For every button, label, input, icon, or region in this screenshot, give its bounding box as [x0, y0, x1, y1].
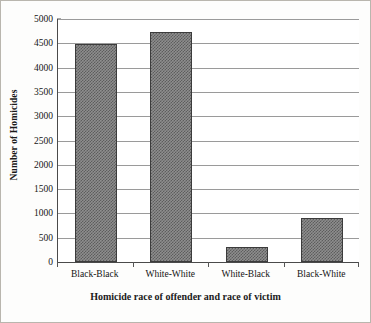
- bar-slot: [285, 19, 361, 262]
- x-axis-tick-mark: [208, 262, 209, 267]
- y-axis-title-text: Number of Homicides: [9, 90, 19, 181]
- y-axis-tick-label: 3000: [34, 111, 53, 121]
- bar-series: [58, 19, 359, 262]
- y-axis-tick-label: 2000: [34, 160, 53, 170]
- x-axis-title-text: Homicide race of offender and race of vi…: [90, 291, 281, 302]
- x-axis-tick-marks: [57, 262, 359, 268]
- bar-slot: [58, 19, 134, 262]
- x-axis-title: Homicide race of offender and race of vi…: [1, 291, 370, 302]
- bar-slot: [209, 19, 285, 262]
- y-axis-tick-label: 3500: [34, 87, 53, 97]
- bar[interactable]: [226, 247, 268, 262]
- x-axis-tick-label: Black-Black: [71, 269, 118, 279]
- y-axis-tick-label: 1000: [34, 208, 53, 218]
- x-axis-tick-label: Black-White: [297, 269, 346, 279]
- y-axis-tick-label: 4500: [34, 38, 53, 48]
- x-axis-tick-labels: Black-BlackWhite-WhiteWhite-BlackBlack-W…: [57, 269, 359, 285]
- x-axis-tick-label: White-White: [145, 269, 195, 279]
- x-axis-tick-mark: [57, 262, 58, 267]
- y-axis-tick-label: 5000: [34, 14, 53, 24]
- y-axis-tick-label: 0: [48, 257, 53, 267]
- bar-chart-figure: Number of Homicides 05001000150020002500…: [0, 0, 371, 323]
- bar[interactable]: [150, 32, 192, 262]
- x-axis-tick-mark: [284, 262, 285, 267]
- x-axis-tick-mark: [133, 262, 134, 267]
- bar-slot: [134, 19, 210, 262]
- y-axis-tick-label: 4000: [34, 63, 53, 73]
- bar[interactable]: [301, 218, 343, 262]
- x-axis-tick-mark: [358, 262, 359, 267]
- y-axis-tick-labels: 0500100015002000250030003500400045005000: [21, 19, 57, 262]
- bar[interactable]: [75, 44, 117, 262]
- y-axis-tick-label: 500: [39, 233, 53, 243]
- x-axis-tick-label: White-Black: [221, 269, 270, 279]
- y-axis-tick-label: 1500: [34, 184, 53, 194]
- y-axis-tick-label: 2500: [34, 136, 53, 146]
- plot-area: [57, 19, 359, 262]
